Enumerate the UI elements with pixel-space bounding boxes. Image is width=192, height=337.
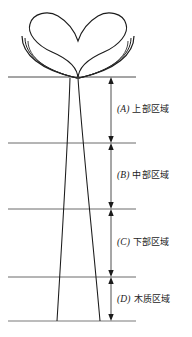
hypocotyl-stem-right-edge <box>78 78 100 321</box>
zone-label-d-key: (D) <box>117 294 131 304</box>
figure-root: (A)上部区域 (B)中部区域 (C)下部区域 (D)木质区域 <box>0 0 192 337</box>
zone-label-c-key: (C) <box>117 237 130 247</box>
measure-arrowhead-c-bottom <box>108 270 113 277</box>
zone-label-a-text: 上部区域 <box>132 104 168 114</box>
measure-arrowhead-a-bottom <box>108 136 113 143</box>
zone-label-d: (D)木质区域 <box>117 295 170 305</box>
measure-arrowhead-d-bottom <box>108 314 113 321</box>
zone-label-d-text: 木质区域 <box>134 294 170 304</box>
zone-label-c-text: 下部区域 <box>133 237 169 247</box>
zone-label-b-key: (B) <box>117 170 129 180</box>
measure-arrowhead-b-top <box>108 143 113 150</box>
zone-label-a-key: (A) <box>117 104 129 114</box>
zone-label-b: (B)中部区域 <box>117 171 169 181</box>
measure-arrowhead-d-top <box>108 277 113 284</box>
measure-arrowhead-a-top <box>108 77 113 84</box>
hypocotyl-stem <box>57 78 100 321</box>
cotyledon-heart <box>29 13 126 79</box>
measure-arrowhead-c-top <box>108 209 113 216</box>
zone-label-b-text: 中部区域 <box>132 170 168 180</box>
measure-arrowhead-b-bottom <box>108 202 113 209</box>
zone-label-c: (C)下部区域 <box>117 238 169 248</box>
seedling-zone-diagram <box>0 0 192 337</box>
measurement-axis-group <box>108 77 113 321</box>
cotyledon-arc-right-outer <box>79 36 134 78</box>
cotyledon-arc-left-outer <box>22 36 77 78</box>
zone-label-a: (A)上部区域 <box>117 105 169 115</box>
hypocotyl-stem-left-edge <box>57 78 70 321</box>
cotyledon-group <box>22 13 134 79</box>
